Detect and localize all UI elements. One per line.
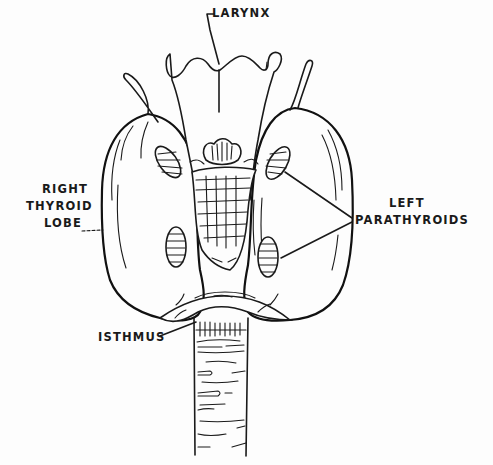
label-isthmus: ISTHMUS — [98, 331, 166, 344]
left-inferior-parathyroid — [258, 237, 278, 277]
cricoid-shield — [192, 167, 256, 270]
right-inferior-parathyroid — [166, 227, 186, 267]
larynx-leader — [207, 14, 219, 64]
label-right-line3: LOBE — [44, 217, 82, 230]
label-right-line1: RIGHT — [42, 183, 88, 196]
right-lobe-leader — [82, 230, 103, 231]
thyroid-diagram: LARYNX RIGHT THYROID LOBE LEFT PARATHYRO… — [0, 0, 493, 465]
label-left-line1: LEFT — [389, 197, 425, 210]
label-right-line2: THYROID — [26, 200, 93, 213]
trachea — [194, 318, 248, 456]
label-larynx: LARYNX — [212, 7, 270, 20]
label-left-line2: PARATHYROIDS — [355, 214, 469, 227]
anatomy-illustration — [0, 0, 493, 465]
